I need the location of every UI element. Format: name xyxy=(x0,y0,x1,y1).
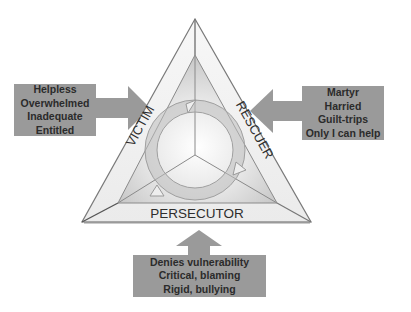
persecutor-traits-box: Denies vulnerability Critical, blaming R… xyxy=(133,255,266,297)
victim-trait: Entitled xyxy=(36,124,75,138)
persecutor-label: PERSECUTOR xyxy=(150,206,244,221)
persecutor-trait: Denies vulnerability xyxy=(150,256,249,270)
rescuer-traits-box: Martyr Harried Guilt-trips Only I can he… xyxy=(302,86,384,140)
persecutor-trait: Critical, blaming xyxy=(159,269,241,283)
rescuer-trait: Harried xyxy=(325,100,362,114)
rescuer-trait: Guilt-trips xyxy=(318,113,368,127)
persecutor-trait: Rigid, bullying xyxy=(163,283,235,297)
victim-trait: Helpless xyxy=(33,83,76,97)
victim-traits-box: Helpless Overwhelmed Inadequate Entitled xyxy=(14,84,96,136)
persecutor-arrow xyxy=(176,230,222,256)
victim-trait: Overwhelmed xyxy=(21,97,90,111)
rescuer-trait: Only I can help xyxy=(306,127,381,141)
victim-trait: Inadequate xyxy=(27,110,82,124)
rescuer-trait: Martyr xyxy=(327,86,359,100)
